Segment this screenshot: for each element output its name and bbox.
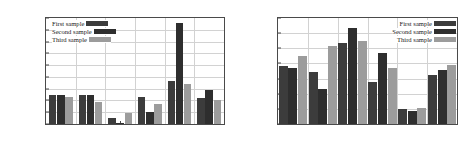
y-tick-label: 0.11 [45, 108, 46, 116]
legend-swatch [434, 37, 456, 42]
bar [338, 43, 347, 124]
legend-label: Third sample [397, 36, 432, 43]
bar [298, 56, 307, 124]
y-tick-mark [46, 53, 49, 54]
bar [197, 98, 205, 124]
bar [65, 97, 73, 124]
bar [146, 112, 154, 124]
legend-label: First sample [52, 20, 84, 27]
y-tick-mark [278, 63, 281, 64]
y-tick-label: 0.12 [45, 96, 46, 104]
bar [408, 111, 417, 124]
x-tick-label: w/o glove [279, 124, 308, 125]
chart-panel-right: Accuracy rate[percentage] 0.10.20.30.40.… [233, 0, 466, 152]
y-tick-mark [278, 33, 281, 34]
y-tick-label: 0.17 [45, 38, 46, 46]
bar [154, 104, 162, 124]
bar [108, 118, 116, 124]
legend-entry: Second sample [52, 28, 116, 35]
bar [184, 84, 192, 124]
y-tick-label: 0.18 [45, 26, 46, 34]
y-tick-label: 0.13 [45, 85, 46, 93]
bar [49, 95, 57, 124]
y-tick-label: 0.1 [45, 120, 46, 125]
legend-swatch [94, 29, 116, 34]
bar [328, 46, 337, 124]
legend-entry: First sample [52, 20, 108, 27]
y-axis-label-left: Accuracy rate[percentage] [1, 0, 15, 16]
bar [176, 23, 184, 124]
gridline-vertical [194, 18, 195, 124]
y-tick-label: 0.16 [45, 49, 46, 57]
bar [138, 97, 146, 124]
bar [388, 68, 397, 124]
bar [368, 82, 377, 124]
gridline-vertical [135, 18, 136, 124]
bar [288, 68, 297, 124]
chart-panel-left: Accuracy rate[percentage] 0.10.110.120.1… [0, 0, 233, 152]
y-tick-mark [46, 76, 49, 77]
y-axis-label-right: Accuracy rate[percentage] [234, 0, 248, 18]
bar [214, 100, 222, 124]
x-tick-label: 0.7 [116, 124, 125, 125]
x-tick-label: Average [197, 124, 221, 125]
y-tick-mark [46, 88, 49, 89]
figure-two-bar-charts: Accuracy rate[percentage] 0.10.110.120.1… [0, 0, 466, 152]
legend-swatch [89, 37, 111, 42]
bar [318, 89, 327, 124]
bar [168, 81, 176, 124]
legend-swatch [434, 29, 456, 34]
legend-right: First sampleSecond sampleThird sample [392, 20, 456, 43]
y-tick-mark [46, 29, 49, 30]
legend-left: First sampleSecond sampleThird sample [52, 20, 116, 43]
x-tick-label: 0 [178, 124, 182, 125]
y-tick-mark [278, 18, 281, 19]
y-tick-label: 0.8 [277, 17, 278, 22]
y-tick-label: 0.7 [277, 29, 278, 37]
legend-swatch [434, 21, 456, 26]
legend-entry: Third sample [52, 36, 111, 43]
bar [398, 109, 407, 124]
y-tick-mark [46, 65, 49, 66]
x-tick-label: 1 [321, 124, 325, 125]
legend-entry: First sample [400, 20, 456, 27]
legend-label: First sample [400, 20, 432, 27]
x-tick-label: 0.4 [378, 124, 387, 125]
bar [348, 28, 357, 124]
legend-entry: Second sample [392, 28, 456, 35]
bar [438, 70, 447, 124]
bar [87, 95, 95, 124]
y-tick-label: 0.6 [277, 44, 278, 52]
bar [279, 66, 288, 124]
bar [205, 90, 213, 124]
y-tick-mark [46, 41, 49, 42]
bar [57, 95, 65, 124]
bar [116, 123, 124, 124]
bar [79, 95, 87, 124]
x-tick-label: 0.4 [145, 124, 154, 125]
y-tick-label: 0.19 [45, 17, 46, 22]
x-tick-label: w/o glove [47, 124, 76, 125]
x-tick-label: Average [430, 124, 454, 125]
x-tick-label: 1 [89, 124, 93, 125]
bar [378, 53, 387, 124]
x-tick-label: 0.7 [348, 124, 357, 125]
legend-swatch [86, 21, 108, 26]
legend-label: Third sample [52, 36, 87, 43]
y-tick-label: 0.15 [45, 61, 46, 69]
x-tick-label: 0 [410, 124, 414, 125]
bar [358, 41, 367, 124]
legend-entry: Third sample [397, 36, 456, 43]
bar [447, 65, 456, 125]
bar [428, 75, 437, 124]
bar [95, 102, 103, 124]
gridline-vertical [165, 18, 166, 124]
bar [309, 72, 318, 124]
y-tick-mark [278, 48, 281, 49]
legend-label: Second sample [392, 28, 432, 35]
bar [417, 108, 426, 124]
legend-label: Second sample [52, 28, 92, 35]
bar [125, 113, 133, 124]
y-tick-label: 0.14 [45, 73, 46, 81]
y-tick-mark [46, 18, 49, 19]
